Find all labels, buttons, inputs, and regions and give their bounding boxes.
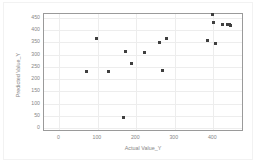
y-tick-label: 50 <box>34 112 40 118</box>
data-point <box>107 70 110 73</box>
y-tick-label: 300 <box>31 51 40 57</box>
gridline-vertical <box>136 14 137 130</box>
plot-area <box>43 13 243 131</box>
x-tick-label: 200 <box>131 134 140 140</box>
gridline-vertical <box>59 14 60 130</box>
data-point <box>211 13 214 16</box>
data-point <box>158 41 161 44</box>
y-tick-label: 100 <box>31 100 40 106</box>
y-axis-title-holder: Predicted Value_Y <box>8 12 18 132</box>
x-axis-title: Actual Value_Y <box>43 145 243 151</box>
x-tick-label: 300 <box>169 134 178 140</box>
data-point <box>165 37 168 40</box>
data-point <box>214 42 217 45</box>
data-point <box>161 69 164 72</box>
gridline-vertical <box>213 14 214 130</box>
data-point <box>85 70 88 73</box>
data-point <box>124 50 127 53</box>
data-point <box>130 62 133 65</box>
data-point <box>143 51 146 54</box>
y-tick-label: 200 <box>31 75 40 81</box>
gridline-vertical <box>98 14 99 130</box>
x-axis-tick-labels: 0100200300400 <box>0 134 257 144</box>
data-point <box>221 23 224 26</box>
data-point <box>212 21 215 24</box>
y-tick-label: 350 <box>31 38 40 44</box>
y-tick-label: 250 <box>31 63 40 69</box>
x-tick-label: 100 <box>93 134 102 140</box>
y-tick-label: 150 <box>31 87 40 93</box>
data-point <box>122 116 125 119</box>
data-point <box>206 39 209 42</box>
data-point <box>95 37 98 40</box>
x-tick-label: 400 <box>208 134 217 140</box>
y-tick-label: 0 <box>37 124 40 130</box>
x-tick-label: 0 <box>57 134 60 140</box>
y-tick-label: 450 <box>31 14 40 20</box>
data-point <box>229 24 232 27</box>
y-tick-label: 400 <box>31 26 40 32</box>
scatter-chart: 050100150200250300350400450 010020030040… <box>0 0 257 168</box>
y-axis-title: Predicted Value_Y <box>15 35 21 115</box>
gridline-vertical <box>175 14 176 130</box>
